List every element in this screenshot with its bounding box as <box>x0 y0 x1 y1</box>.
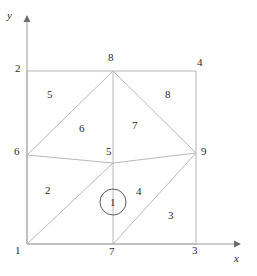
node-label-4: 4 <box>197 57 203 68</box>
axes-group <box>24 15 242 248</box>
node-label-5: 5 <box>106 146 112 157</box>
node-label-1: 1 <box>15 245 21 256</box>
x-axis-arrowhead <box>234 241 241 248</box>
node-label-7: 7 <box>109 246 115 257</box>
element-label-5: 5 <box>47 89 53 100</box>
edge-9-8 <box>113 71 196 153</box>
edge-5-9 <box>113 153 196 163</box>
node-label-8: 8 <box>108 52 114 63</box>
element-label-4: 4 <box>136 186 142 197</box>
node-label-6: 6 <box>14 146 20 157</box>
node-label-3: 3 <box>192 245 198 256</box>
x-axis-label: x <box>234 253 239 264</box>
node-label-9: 9 <box>201 146 207 157</box>
edge-6-8 <box>27 71 113 155</box>
node-label-2: 2 <box>15 63 21 74</box>
y-axis-arrowhead <box>24 15 31 22</box>
mesh-figure: y x 1 2 3 4 5 6 7 8 9 1 2 3 4 5 6 7 8 <box>0 0 257 276</box>
y-axis-label: y <box>7 10 12 21</box>
element-label-1: 1 <box>110 197 116 208</box>
element-label-3: 3 <box>168 210 174 221</box>
element-label-7: 7 <box>132 120 138 131</box>
mesh-canvas <box>0 0 257 276</box>
element-label-8: 8 <box>165 89 171 100</box>
element-label-6: 6 <box>79 123 85 134</box>
element-label-2: 2 <box>45 185 51 196</box>
edge-6-5 <box>27 155 113 163</box>
